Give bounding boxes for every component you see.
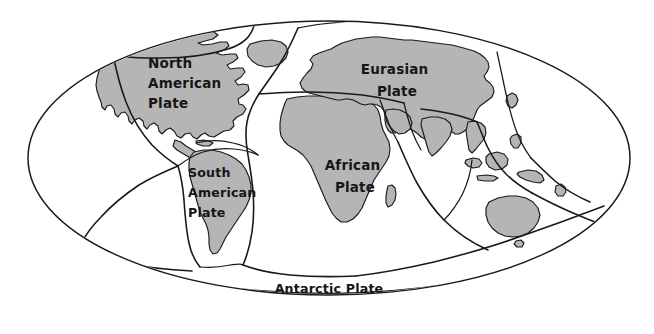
label-line: Plate [335, 179, 375, 195]
label-line: American [148, 75, 221, 91]
label-line: South [188, 165, 231, 180]
label-line: Plate [377, 83, 417, 99]
label-line: North [148, 55, 192, 71]
landmass-borneo [486, 152, 508, 170]
label-line: Eurasian [361, 61, 429, 77]
label-line: Plate [148, 95, 188, 111]
label-antarctic-plate: Antarctic Plate [275, 281, 384, 296]
tectonic-plates-map: North American Plate Eurasian Plate Afri… [0, 0, 654, 334]
landmass-java [477, 175, 498, 181]
label-line: American [188, 185, 256, 200]
label-line: African [325, 157, 381, 173]
world-map-svg: North American Plate Eurasian Plate Afri… [0, 0, 654, 334]
landmass-tasmania [514, 240, 524, 247]
label-line: Antarctic Plate [275, 281, 384, 296]
label-line: Plate [188, 205, 226, 220]
